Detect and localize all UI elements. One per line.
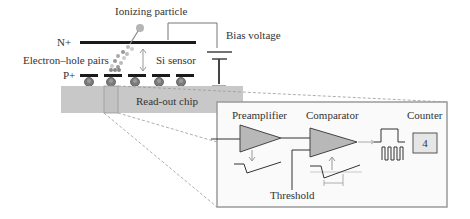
bump-highlight [87,79,91,83]
bias-voltage-label: Bias voltage [226,30,281,41]
counter-value: 4 [413,137,437,149]
bump-highlight [109,79,113,83]
n-plus-electrode [80,41,196,44]
electron-hole-pairs [109,45,134,72]
bump-highlight [157,79,161,83]
electron-hole-pairs-label: Electron–hole pairs [23,55,109,66]
bias-wire [168,23,217,48]
threshold-label: Threshold [270,190,315,201]
p-plus-electrodes [80,74,194,77]
comparator-label: Comparator [306,110,359,121]
drift-arrow-icon [140,49,146,71]
counter-label: Counter [407,110,442,121]
bump-highlight [179,79,183,83]
ionizing-particle-label: Ionizing particle [115,6,187,17]
readout-chip-label: Read-out chip [136,96,198,107]
ionizing-particle [136,24,144,32]
si-sensor-label: Si sensor [156,55,196,66]
preamplifier-label: Preamplifier [232,110,287,121]
n-plus-label: N+ [57,37,71,48]
bump-highlight [133,79,137,83]
p-plus-label: P+ [63,70,75,81]
pixel-cell-highlight [104,86,118,113]
